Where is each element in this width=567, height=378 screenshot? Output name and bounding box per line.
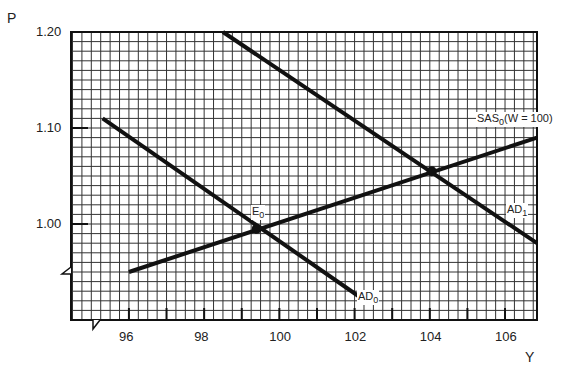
y-tick-label: 1.00 (36, 216, 61, 231)
ad1-label: AD1 (506, 203, 528, 218)
y-axis-label: P (7, 10, 16, 26)
x-tick-label: 100 (269, 329, 291, 344)
x-tick-label: 98 (194, 329, 208, 344)
x-tick-label: 106 (495, 329, 517, 344)
x-axis-label: Y (525, 349, 534, 365)
e0-label: E0 (251, 205, 265, 220)
curves (103, 32, 537, 296)
x-tick-label: 102 (345, 329, 367, 344)
sas0-label: SAS0(W = 100) (476, 112, 554, 127)
x-tick-label: 104 (420, 329, 442, 344)
grid (71, 32, 537, 320)
x-tick-label: 96 (119, 329, 133, 344)
chart-canvas (0, 0, 567, 378)
y-tick-label: 1.20 (36, 24, 61, 39)
y-tick-label: 1.10 (36, 120, 61, 135)
ad0-label: AD0 (357, 290, 379, 305)
